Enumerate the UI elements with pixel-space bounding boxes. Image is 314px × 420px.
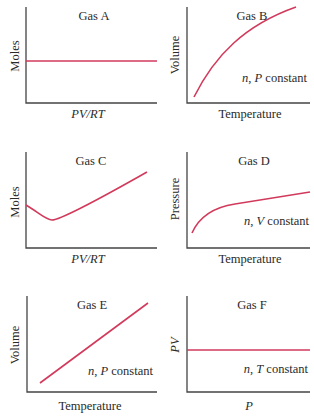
y-axis-label: Moles: [8, 40, 22, 71]
y-axis-label: PV: [168, 336, 182, 354]
panel-title: Gas E: [77, 298, 108, 312]
panel-gas-c: Gas C Moles PV/RT: [8, 152, 157, 266]
data-curve: [26, 172, 147, 220]
constant-note: n, T constant: [244, 362, 309, 376]
y-axis-label: Pressure: [168, 177, 182, 220]
x-axis-label: PV/RT: [70, 107, 105, 121]
constant-note: n, P constant: [88, 364, 153, 378]
panel-gas-a: Gas A Moles PV/RT: [8, 7, 157, 121]
x-axis-label: Temperature: [59, 399, 122, 413]
constant-note: n, V constant: [244, 214, 309, 228]
panel-title: Gas F: [237, 298, 267, 312]
panel-title: Gas B: [237, 9, 268, 23]
panel-gas-e: Gas E Volume Temperature n, P constant: [8, 296, 157, 413]
x-axis-label: Temperature: [219, 252, 282, 266]
y-axis-label: Moles: [8, 186, 22, 217]
y-axis-label: Volume: [168, 35, 182, 74]
x-axis-label: P: [244, 399, 253, 413]
panel-title: Gas D: [238, 154, 270, 168]
panel-gas-d: Gas D Pressure Temperature n, V constant: [168, 152, 310, 266]
x-axis-label: Temperature: [219, 107, 282, 121]
panel-gas-b: Gas B Volume Temperature n, P constant: [168, 7, 310, 121]
x-axis-label: PV/RT: [70, 252, 105, 266]
gas-graphs-figure: Gas A Moles PV/RT Gas B Volume Temperatu…: [0, 0, 314, 420]
panel-title: Gas C: [76, 154, 107, 168]
panel-title: Gas A: [79, 9, 110, 23]
constant-note: n, P constant: [242, 71, 307, 85]
y-axis-label: Volume: [8, 325, 22, 364]
panel-gas-f: Gas F PV P n, T constant: [168, 296, 310, 413]
